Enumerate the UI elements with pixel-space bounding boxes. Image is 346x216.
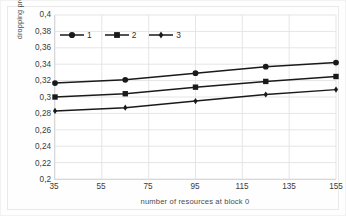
legend-entry-3[interactable]: 3 <box>148 28 181 42</box>
legend-entry-1[interactable]: 1 <box>59 28 92 42</box>
data-point-3 <box>334 87 338 93</box>
data-point-2 <box>52 94 57 99</box>
chart-legend: 123 <box>59 28 181 42</box>
data-point-1 <box>333 60 339 66</box>
y-axis-tick-label: 0,38 <box>23 27 51 35</box>
data-point-2 <box>333 74 338 79</box>
line-chart-figure: dropping probability 0,40,380,360,340,32… <box>0 0 346 216</box>
legend-marker-square-icon <box>104 29 130 41</box>
legend-point <box>114 32 120 38</box>
data-point-2 <box>193 84 198 89</box>
y-axis-tick-label: 0,28 <box>23 110 51 118</box>
legend-point <box>159 32 164 39</box>
data-point-1 <box>193 70 199 76</box>
x-axis-tick-label: 155 <box>329 183 343 191</box>
data-point-2 <box>263 79 268 84</box>
x-axis-title: number of resources at block 0 <box>51 197 339 206</box>
legend-entry-2[interactable]: 2 <box>104 28 137 42</box>
data-point-3 <box>193 98 197 104</box>
y-axis-tick-label: 0,3 <box>23 93 51 101</box>
x-axis-tick-labels: 35557595115135155 <box>1 183 346 195</box>
y-axis-tick-label: 0,26 <box>23 126 51 134</box>
data-point-1 <box>52 80 58 86</box>
y-axis-tick-label: 0,36 <box>23 44 51 52</box>
x-axis-tick-label: 115 <box>235 183 248 191</box>
y-axis-tick-label: 0,24 <box>23 143 51 151</box>
legend-marker-circle-icon <box>59 29 85 41</box>
y-axis-tick-label: 0,34 <box>23 60 51 68</box>
x-axis-tick-label: 35 <box>49 183 58 191</box>
legend-label: 3 <box>176 31 181 39</box>
y-axis-tick-label: 0,32 <box>23 77 51 85</box>
x-axis-tick-label: 75 <box>143 183 152 191</box>
data-point-3 <box>123 105 127 111</box>
legend-marker-diamond-icon <box>148 29 174 41</box>
legend-point <box>69 32 75 38</box>
y-axis-tick-label: 0,4 <box>23 11 51 19</box>
data-point-1 <box>263 64 269 70</box>
legend-label: 2 <box>132 31 137 39</box>
x-axis-tick-label: 95 <box>190 183 199 191</box>
data-point-1 <box>122 77 128 83</box>
x-axis-tick-label: 55 <box>96 183 105 191</box>
y-axis-tick-label: 0,22 <box>23 159 51 167</box>
legend-label: 1 <box>87 31 92 39</box>
x-axis-tick-label: 135 <box>282 183 296 191</box>
data-point-2 <box>123 91 128 96</box>
